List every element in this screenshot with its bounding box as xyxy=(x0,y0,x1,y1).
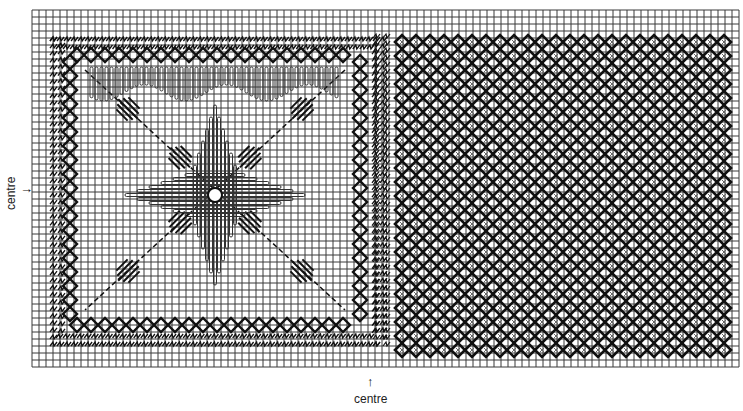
bottom-centre-label: centre xyxy=(354,392,387,406)
left-centre-label: centre xyxy=(4,177,18,210)
right-arrow-icon: → xyxy=(20,182,33,195)
needlework-chart xyxy=(0,0,743,411)
right-lattice-square xyxy=(373,34,731,357)
up-arrow-icon: ↑ xyxy=(367,375,374,388)
